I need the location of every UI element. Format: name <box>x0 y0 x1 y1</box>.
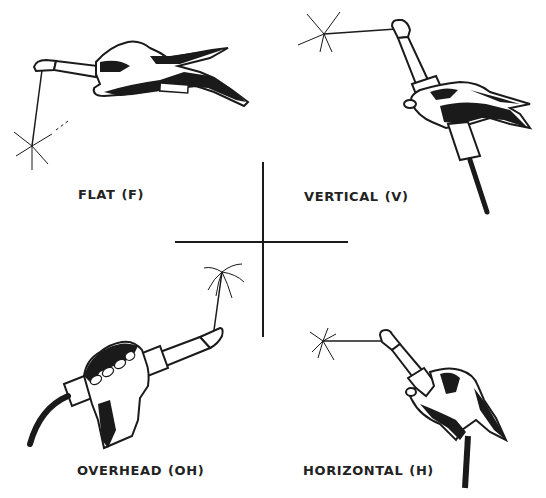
overhead-position-illustration <box>30 264 244 448</box>
position-code: (OH) <box>168 463 204 478</box>
cable <box>30 396 68 444</box>
electrode-wire <box>324 29 396 34</box>
arc-spark-icon <box>310 328 336 360</box>
holder-barrel <box>160 337 210 366</box>
welding-positions-diagram: FLAT(F) VERTICAL(V) OVERHEAD(OH) HORIZON… <box>0 0 546 498</box>
overhead-position-label: OVERHEAD(OH) <box>77 463 204 478</box>
holder-tip <box>392 20 410 38</box>
position-name: HORIZONTAL <box>303 463 403 478</box>
position-code: (F) <box>121 187 144 202</box>
holder-tip <box>34 60 56 71</box>
position-name: FLAT <box>78 187 115 202</box>
cable <box>465 436 468 488</box>
position-code: (H) <box>409 463 434 478</box>
arc-spark-icon <box>298 12 340 52</box>
vertical-position-illustration <box>298 12 530 212</box>
electrode-wire <box>32 70 42 146</box>
holder-end <box>160 83 188 93</box>
thumb <box>406 388 416 396</box>
vertical-position-label: VERTICAL(V) <box>304 189 409 204</box>
hand-shape <box>94 42 248 106</box>
holder-handle <box>448 122 480 160</box>
cable <box>470 160 487 212</box>
arc-spark-icon <box>14 121 68 170</box>
position-code: (V) <box>385 189 409 204</box>
thumb <box>404 100 416 108</box>
electrode-wire <box>214 272 222 330</box>
flat-position-label: FLAT(F) <box>78 187 144 202</box>
horizontal-position-label: HORIZONTAL(H) <box>303 463 434 478</box>
flat-position-illustration <box>14 42 248 170</box>
holder-barrel <box>54 61 98 77</box>
position-name: VERTICAL <box>304 189 379 204</box>
holder-barrel <box>398 37 428 84</box>
arc-spark-icon <box>204 264 244 298</box>
position-name: OVERHEAD <box>77 463 162 478</box>
